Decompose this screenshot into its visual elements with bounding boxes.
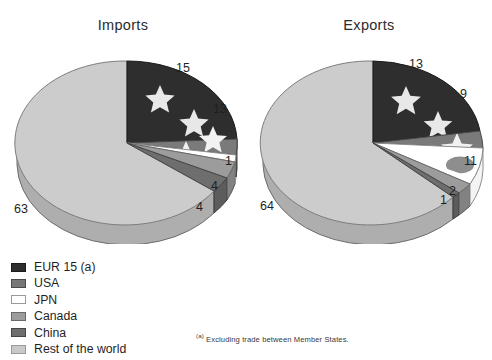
pie-value-canada-imports: 4 [211,180,218,193]
chart-legend: EUR 15 (a) USA JPN Canada China Rest of … [11,259,211,357]
pie-value-eur15-exports: 13 [409,58,423,71]
pie-value-jpn-exports: 11 [464,155,477,168]
pie-slice-eur15-exports [373,61,480,143]
legend-item-china: China [11,325,211,341]
pie-chart-exports [254,38,492,244]
pie-chart-imports [8,38,246,244]
legend-item-canada: Canada [11,308,211,324]
legend-swatch-usa [11,279,26,288]
legend-swatch-eur15 [11,263,26,272]
footnote: (a) Excluding trade between Member State… [196,332,349,344]
legend-label-usa: USA [34,277,59,289]
legend-item-jpn: JPN [11,292,211,308]
chart-title-exports: Exports [246,17,492,33]
legend-label-china: China [34,327,66,339]
legend-swatch-jpn [11,295,26,304]
footnote-text: Excluding trade between Member States. [206,335,349,344]
legend-item-rest-of-the-world: Rest of the world [11,341,211,357]
legend-label-rest-of-the-world: Rest of the world [34,343,126,355]
legend-swatch-canada [11,312,26,321]
chart-panel-exports: Exports [246,0,492,248]
legend-label-canada: Canada [34,310,77,322]
footnote-marker: (a) [196,332,204,339]
legend-item-eur15: EUR 15 (a) [11,259,211,275]
pie-value-eur15-imports: 15 [176,62,190,75]
legend-label-eur15: EUR 15 (a) [34,261,96,273]
pie-value-usa-exports: 9 [460,88,467,101]
chart-panel-imports: Imports [0,0,246,248]
pie-value-canada-exports: 2 [449,185,456,198]
pie-value-china-imports: 4 [196,201,203,214]
legend-item-usa: USA [11,275,211,291]
chart-title-imports: Imports [0,17,260,33]
legend-swatch-rest-of-the-world [11,345,26,354]
pie-value-usa-imports: 13 [213,103,227,116]
legend-swatch-china [11,328,26,337]
pie-svg-exports [254,38,492,244]
legend-label-jpn: JPN [34,294,57,306]
pie-value-china-exports: 1 [440,194,447,207]
pie-value-jpn-imports: 1 [225,155,232,168]
pie-value-row-imports: 63 [14,203,28,216]
pie-svg-imports [8,38,246,244]
pie-value-row-exports: 64 [260,200,274,213]
